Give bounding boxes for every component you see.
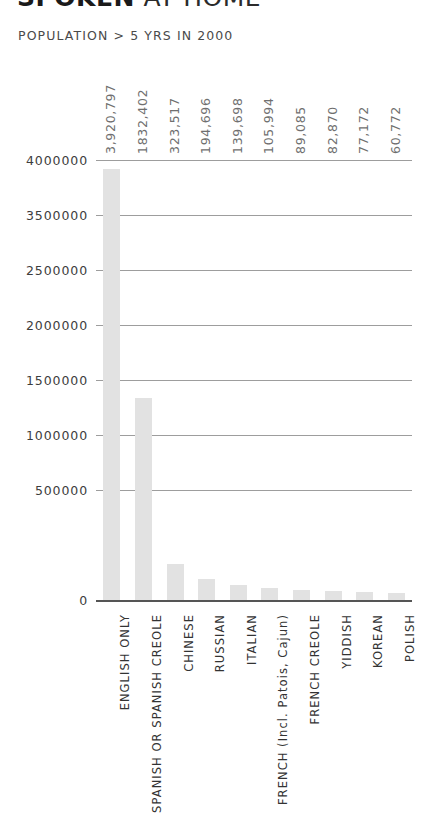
category-labels-layer: ENGLISH ONLYSPANISH OR SPANISH CREOLECHI… [96, 614, 412, 835]
x-axis-category-label: YIDDISH [340, 614, 354, 669]
x-axis-category-label: ENGLISH ONLY [118, 614, 132, 710]
y-axis-tick-label: 4000000 [0, 153, 88, 168]
value-labels-layer: 3,920,7971832,402323,517194,696139,69810… [96, 66, 412, 154]
bar-value-label: 89,085 [293, 106, 308, 154]
y-axis-tick-label: 0 [0, 593, 88, 608]
y-axis-tick-label: 500000 [0, 483, 88, 498]
y-axis-tick-label: 1500000 [0, 373, 88, 388]
bar-value-label: 60,772 [388, 106, 403, 154]
y-axis-tick-label: 2000000 [0, 318, 88, 333]
y-axis-tick-label: 3500000 [0, 208, 88, 223]
bar[interactable] [261, 588, 278, 600]
bar-value-label: 139,698 [230, 97, 245, 154]
title-strong-part: SPOKEN [17, 0, 135, 12]
bar-value-label: 1832,402 [135, 89, 150, 154]
bar[interactable] [135, 398, 152, 600]
bar-value-label: 194,696 [198, 97, 213, 154]
x-axis-category-label: SPANISH OR SPANISH CREOLE [150, 614, 164, 813]
bars-layer [96, 160, 412, 600]
chart-subtitle: POPULATION > 5 YRS IN 2000 [18, 28, 233, 43]
bar[interactable] [230, 585, 247, 600]
x-axis-category-label: POLISH [403, 614, 417, 662]
bar-value-label: 3,920,797 [103, 84, 118, 154]
bar-value-label: 77,172 [356, 106, 371, 154]
x-axis-category-label: FRENCH (Incl. Patois, Cajun) [276, 614, 290, 805]
x-axis-category-label: ITALIAN [245, 614, 259, 665]
bar[interactable] [167, 564, 184, 600]
x-axis-category-label: FRENCH CREOLE [308, 614, 322, 724]
title-light-part: AT HOME [135, 0, 261, 12]
page-title: SPOKEN AT HOME [17, 0, 261, 12]
x-axis-category-label: RUSSIAN [213, 614, 227, 672]
bar-value-label: 105,994 [261, 97, 276, 154]
bar[interactable] [325, 591, 342, 600]
x-axis-category-label: KOREAN [371, 614, 385, 668]
bar-value-label: 323,517 [167, 97, 182, 154]
bar[interactable] [388, 593, 405, 600]
bar[interactable] [198, 579, 215, 600]
x-axis-baseline [96, 600, 412, 602]
y-axis-labels: 4000000350000025000002000000150000010000… [0, 160, 88, 600]
x-axis-category-label: CHINESE [182, 614, 196, 672]
y-axis-tick-label: 1000000 [0, 428, 88, 443]
y-axis-tick-label: 2500000 [0, 263, 88, 278]
bar-value-label: 82,870 [325, 106, 340, 154]
bar[interactable] [356, 592, 373, 600]
bar[interactable] [103, 169, 120, 600]
bar[interactable] [293, 590, 310, 600]
